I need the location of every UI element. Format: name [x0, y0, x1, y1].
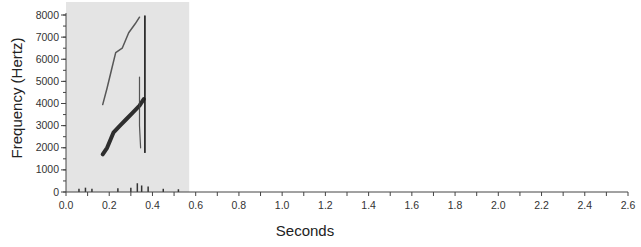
x-tick-label: 0.0 [59, 199, 74, 211]
y-tick-label: 4000 [36, 97, 60, 109]
x-tick-label: 0.2 [102, 199, 117, 211]
x-tick-label: 2.0 [491, 199, 506, 211]
x-tick-label: 1.4 [361, 199, 376, 211]
y-axis-title: Frequency (Hertz) [8, 38, 25, 159]
x-tick-label: 0.6 [188, 199, 203, 211]
y-tick-label: 3000 [36, 119, 60, 131]
x-axis: 0.00.20.40.60.81.01.21.41.61.82.02.22.42… [59, 192, 636, 211]
x-tick-label: 2.4 [577, 199, 592, 211]
y-axis: 010002000300040005000600070008000 [36, 9, 66, 198]
y-tick-label: 2000 [36, 141, 60, 153]
y-tick-label: 5000 [36, 75, 60, 87]
x-tick-label: 0.4 [145, 199, 160, 211]
x-tick-label: 2.2 [534, 199, 549, 211]
x-tick-label: 1.2 [318, 199, 333, 211]
x-axis-title: Seconds [276, 222, 334, 239]
y-tick-label: 0 [53, 186, 59, 198]
x-tick-label: 2.6 [621, 199, 636, 211]
x-tick-label: 1.0 [275, 199, 290, 211]
x-tick-label: 1.8 [448, 199, 463, 211]
y-tick-label: 8000 [36, 9, 60, 21]
y-tick-label: 7000 [36, 31, 60, 43]
x-tick-label: 1.6 [405, 199, 420, 211]
spectrogram-chart: 010002000300040005000600070008000 0.00.2… [0, 0, 641, 247]
y-tick-label: 6000 [36, 53, 60, 65]
x-tick-label: 0.8 [232, 199, 247, 211]
y-tick-label: 1000 [36, 163, 60, 175]
recorded-region [66, 2, 189, 192]
